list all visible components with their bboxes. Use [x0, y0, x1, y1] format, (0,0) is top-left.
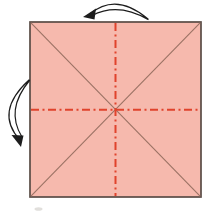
diagram-canvas	[0, 0, 219, 216]
print-smudge	[35, 207, 43, 211]
origami-diagram	[0, 0, 219, 216]
